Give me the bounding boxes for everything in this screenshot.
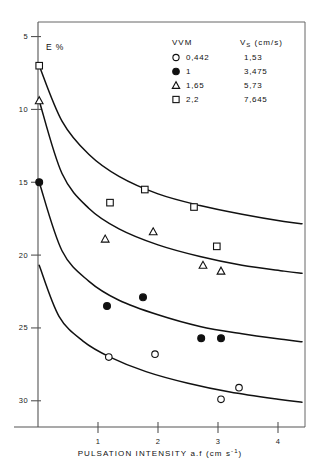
x-tick-label: 1 [96,437,101,446]
x-axis-ticks: 1234 [96,422,281,446]
legend-marker-open-circle [173,54,179,60]
x-axis-title-end: ) [239,449,243,458]
x-axis-title: PULSATION INTENSITY a.f (cm s-1) [78,448,243,458]
data-point-open-triangle [101,235,109,242]
y-tick-label: 25 [19,323,28,332]
y-tick-label: 20 [19,251,28,260]
x-tick-label: 3 [216,437,221,446]
data-point-open-square [214,243,221,250]
x-tick-label: 4 [276,437,281,446]
legend-header-vvm: VVM [172,38,192,47]
fitted-curves [39,66,302,403]
data-point-open-circle [106,354,113,361]
data-point-open-circle [218,396,225,403]
data-point-open-triangle [35,97,43,104]
data-point-filled-circle [104,303,111,310]
legend-marker-open-triangle [172,82,179,89]
legend-vvm-value: 0,442 [186,53,210,62]
data-point-open-square [107,199,114,206]
svg-text:PULSATION INTENSITY a.f (cm s-: PULSATION INTENSITY a.f (cm s-1) [78,448,243,458]
legend-vs-value: 3,475 [244,67,268,76]
legend: VVM VS (cm/s) 0,4421,5313,4751,655,732,2… [172,38,283,104]
x-tick-label: 2 [156,437,161,446]
y-tick-label: 30 [19,396,28,405]
y-tick-label: 5 [23,32,28,41]
legend-marker-open-square [173,96,179,102]
series-curve-1 [39,182,302,342]
legend-marker-filled-circle [173,68,180,75]
legend-vvm-value: 2,2 [186,95,199,104]
data-point-open-triangle [199,261,207,268]
data-point-filled-circle [140,294,147,301]
data-point-filled-circle [198,335,205,342]
data-point-open-circle [152,351,159,358]
scatter-chart: 30252015105 1234 E % PULSATION INTENSITY… [0,0,322,476]
data-point-filled-circle [36,179,43,186]
series-curve-1,65 [39,101,302,274]
data-point-filled-circle [218,335,225,342]
data-point-open-square [191,204,198,211]
data-point-open-triangle [149,228,157,235]
legend-vs-value: 7,645 [244,95,268,104]
data-point-open-triangle [217,267,225,274]
data-point-open-circle [236,384,243,391]
data-markers [35,62,242,402]
y-tick-label: 15 [19,178,28,187]
y-axis-label: E % [46,42,64,52]
x-axis-title-superscript: -1 [231,448,239,454]
x-axis-title-main: PULSATION INTENSITY a.f (cm s [78,449,231,458]
legend-header-vs: VS (cm/s) [240,38,283,48]
legend-vvm-value: 1 [186,67,191,76]
data-point-open-square [36,62,43,69]
chart-figure: 30252015105 1234 E % PULSATION INTENSITY… [0,0,322,476]
data-point-open-square [142,186,149,193]
legend-vvm-value: 1,65 [186,81,204,90]
y-tick-label: 10 [19,105,28,114]
series-curve-2,2 [39,66,302,224]
legend-vs-value: 1,53 [244,53,262,62]
series-curve-0,442 [39,265,302,402]
legend-vs-value: 5,73 [244,81,262,90]
